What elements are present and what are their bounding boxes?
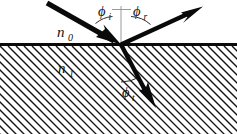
hatch-lines — [0, 46, 237, 134]
label-angle-incidence-sub: i — [109, 12, 112, 22]
label-angle-reflection: ϕ r — [133, 3, 148, 22]
label-angle-reflection-base: ϕ — [133, 3, 141, 19]
label-index-upper-base: n — [57, 24, 65, 40]
label-angle-transmission: ϕ t — [122, 84, 135, 103]
label-index-lower-base: n — [58, 60, 66, 76]
label-angle-incidence-base: ϕ — [98, 3, 106, 19]
lower-medium-hatching — [0, 46, 237, 134]
label-index-lower: n 1 — [58, 60, 74, 79]
label-index-upper: n 0 — [57, 24, 73, 43]
label-angle-reflection-sub: r — [144, 12, 148, 22]
optics-diagram: ϕ i ϕ r n 0 n 1 ϕ t — [0, 0, 237, 134]
label-index-upper-sub: 0 — [68, 32, 73, 43]
label-angle-transmission-sub: t — [132, 93, 135, 103]
label-angle-incidence: ϕ i — [98, 3, 112, 22]
reflected-ray-arrowhead — [181, 7, 203, 24]
incident-ray-arrowhead — [96, 25, 121, 45]
diagram-canvas: ϕ i ϕ r n 0 n 1 ϕ t — [0, 0, 237, 134]
label-angle-transmission-base: ϕ — [122, 84, 130, 100]
label-index-lower-sub: 1 — [69, 68, 74, 79]
